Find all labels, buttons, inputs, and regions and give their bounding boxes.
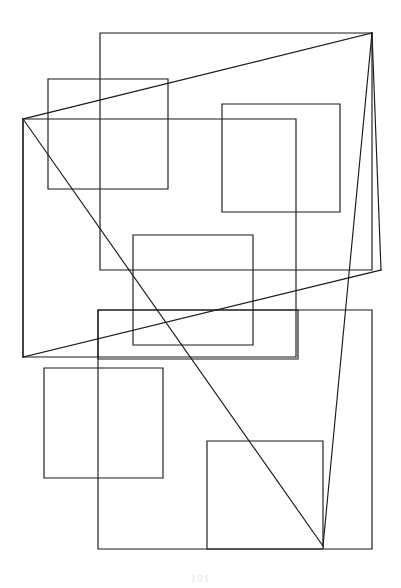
left-wide-rectangle: [23, 119, 296, 357]
bottom-wide-rectangle: [98, 310, 372, 549]
figure-canvas: [0, 0, 401, 588]
upper-left-rectangle: [48, 79, 168, 189]
line-left-lower-to-right: [23, 270, 381, 357]
lower-left-rectangle: [44, 368, 163, 478]
center-rectangle: [133, 235, 253, 345]
line-left-upper-to-bottom: [23, 119, 323, 546]
line-group: [23, 33, 381, 546]
upper-right-rectangle: [222, 104, 340, 212]
page-number: 101: [0, 572, 401, 584]
line-apex-to-bottom: [323, 33, 372, 546]
bottom-right-rectangle: [207, 441, 323, 549]
line-apex-to-left-upper: [23, 33, 372, 119]
figure-page: 101: [0, 0, 401, 588]
rectangle-group: [23, 33, 372, 549]
line-apex-to-right-mid: [372, 33, 381, 270]
mid-wide-rectangle: [98, 310, 298, 359]
